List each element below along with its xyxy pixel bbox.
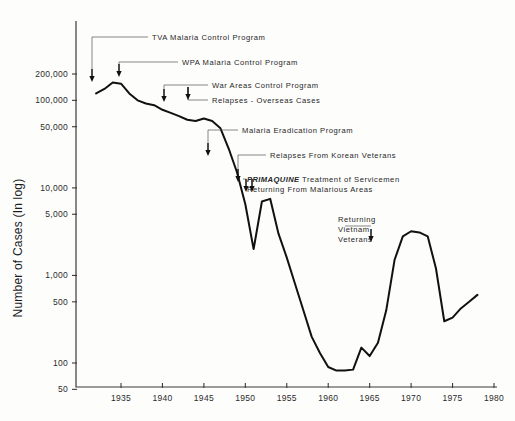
y-tick-label: 50 <box>58 384 68 394</box>
x-tick-label: 1935 <box>111 393 131 403</box>
annotation-label-rest: Treatment of Servicemen <box>302 175 400 184</box>
x-tick-label: 1960 <box>318 393 338 403</box>
annotation-label: Relapses - Overseas Cases <box>212 96 320 105</box>
annotation-label: Vietnam <box>338 225 370 234</box>
annotation-emphasis: PRIMAQUINE <box>247 175 302 184</box>
annotation-arrow <box>185 87 190 100</box>
annotation-label: Relapses From Korean Veterans <box>270 151 396 160</box>
annotation-label: WPA Malaria Control Program <box>182 58 298 67</box>
chart-plot-area: 200,000100,00050,00010,0005,0001,0005001… <box>0 0 515 421</box>
annotation-arrow <box>116 64 121 77</box>
y-tick-label: 200,000 <box>35 69 68 79</box>
x-tick-label: 1945 <box>194 393 214 403</box>
y-axis-title: Number of Cases (In log) <box>11 179 25 318</box>
chart-axes <box>76 21 497 387</box>
arrow-head <box>185 94 190 100</box>
leader-line <box>238 155 266 169</box>
x-axis-tick-labels: 1935194019451950195519601965197019751980 <box>111 393 504 403</box>
annotation-label-line2: Returning From Malarious Areas <box>247 185 373 194</box>
y-tick-label: 100,000 <box>35 95 68 105</box>
x-tick-label: 1940 <box>152 393 172 403</box>
y-tick-label: 10,000 <box>40 183 68 193</box>
leader-line <box>164 85 208 89</box>
chart-tick-marks <box>72 74 494 389</box>
y-tick-label: 100 <box>53 358 68 368</box>
malaria-cases-chart: 200,000100,00050,00010,0005,0001,0005001… <box>0 0 515 421</box>
y-tick-label: 50,000 <box>40 122 68 132</box>
chart-annotations: TVA Malaria Control ProgramWPA Malaria C… <box>89 33 399 244</box>
y-tick-label: 1,000 <box>45 270 68 280</box>
annotation-arrow <box>205 143 210 156</box>
leader-line <box>119 62 178 64</box>
arrow-head <box>116 71 121 77</box>
annotation-label: Returning <box>338 215 376 224</box>
annotation-label: Malaria Eradication Program <box>242 126 353 135</box>
leader-line <box>92 37 148 69</box>
y-tick-label: 500 <box>53 297 68 307</box>
annotation-label: Veterans <box>338 235 372 244</box>
arrow-head <box>161 96 166 102</box>
annotation-vietnam: ReturningVietnamVeterans <box>338 215 376 244</box>
y-axis-title-text: Number of Cases (In log) <box>11 179 25 318</box>
x-tick-label: 1950 <box>235 393 255 403</box>
y-axis-tick-labels: 200,000100,00050,00010,0005,0001,0005001… <box>35 69 68 394</box>
y-tick-label: 5,000 <box>45 209 68 219</box>
x-tick-label: 1965 <box>360 393 380 403</box>
x-tick-label: 1975 <box>443 393 463 403</box>
annotation-label: War Areas Control Program <box>212 81 319 90</box>
arrow-head <box>205 150 210 156</box>
x-tick-label: 1955 <box>277 393 297 403</box>
annotation-wpa: WPA Malaria Control Program <box>116 58 298 77</box>
annotation-arrow <box>161 89 166 102</box>
leader-line <box>188 87 208 100</box>
x-tick-label: 1970 <box>401 393 421 403</box>
annotation-arrow <box>89 69 94 82</box>
annotation-label: TVA Malaria Control Program <box>152 33 265 42</box>
axis-lines <box>76 21 497 387</box>
annotation-primaquine: PRIMAQUINE Treatment of ServicemenReturn… <box>243 175 400 194</box>
arrow-head <box>89 76 94 82</box>
x-tick-label: 1980 <box>484 393 504 403</box>
annotation-label: PRIMAQUINE Treatment of Servicemen <box>247 175 400 184</box>
